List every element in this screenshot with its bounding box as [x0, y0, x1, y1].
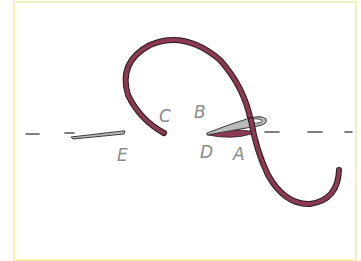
stitch-guide-line: [26, 132, 352, 134]
label-a: A: [233, 146, 245, 163]
label-b: B: [194, 104, 206, 121]
label-d: D: [200, 144, 213, 161]
label-e: E: [117, 147, 128, 164]
label-c: C: [159, 108, 171, 125]
completed-stitch-left: [71, 131, 125, 139]
